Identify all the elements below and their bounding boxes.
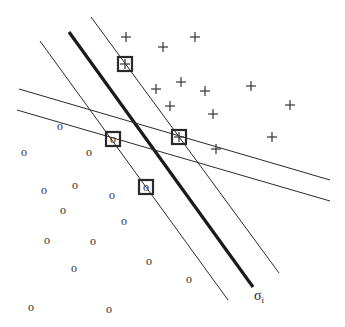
plus-marker <box>246 81 256 91</box>
alternate-hyperplane-upper <box>19 89 330 180</box>
o-marker: o <box>21 145 27 159</box>
o-marker: o <box>90 234 96 248</box>
hyperplane-label: σi <box>254 288 265 305</box>
plus-marker <box>174 132 184 142</box>
alternate-hyperplane-lower <box>17 110 330 201</box>
o-marker: o <box>60 203 66 217</box>
o-marker: o <box>72 178 78 192</box>
plus-marker <box>121 32 131 42</box>
o-marker: o <box>186 272 192 286</box>
o-marker: o <box>106 302 112 316</box>
negative-class-points: ooooooooooooooooo <box>21 119 192 316</box>
o-marker: o <box>143 180 149 194</box>
plus-marker <box>200 86 210 96</box>
separating-hyperplane <box>69 32 253 287</box>
plus-marker <box>190 32 200 42</box>
o-marker: o <box>109 188 115 202</box>
svm-diagram: ooooooooooooooooo σi <box>0 0 345 327</box>
o-marker: o <box>28 300 34 314</box>
o-marker: o <box>86 145 92 159</box>
plus-marker <box>151 84 161 94</box>
plus-marker <box>208 109 218 119</box>
o-marker: o <box>110 132 116 146</box>
plus-marker <box>176 77 186 87</box>
plus-marker <box>285 100 295 110</box>
o-marker: o <box>44 233 50 247</box>
support-vectors <box>106 57 186 194</box>
o-marker: o <box>146 254 152 268</box>
plus-marker <box>165 101 175 111</box>
o-marker: o <box>41 183 47 197</box>
lower-margin-line <box>40 41 228 300</box>
o-marker: o <box>57 119 63 133</box>
o-marker: o <box>71 261 77 275</box>
plus-marker <box>267 132 277 142</box>
plus-marker <box>158 42 168 52</box>
o-marker: o <box>121 214 127 228</box>
